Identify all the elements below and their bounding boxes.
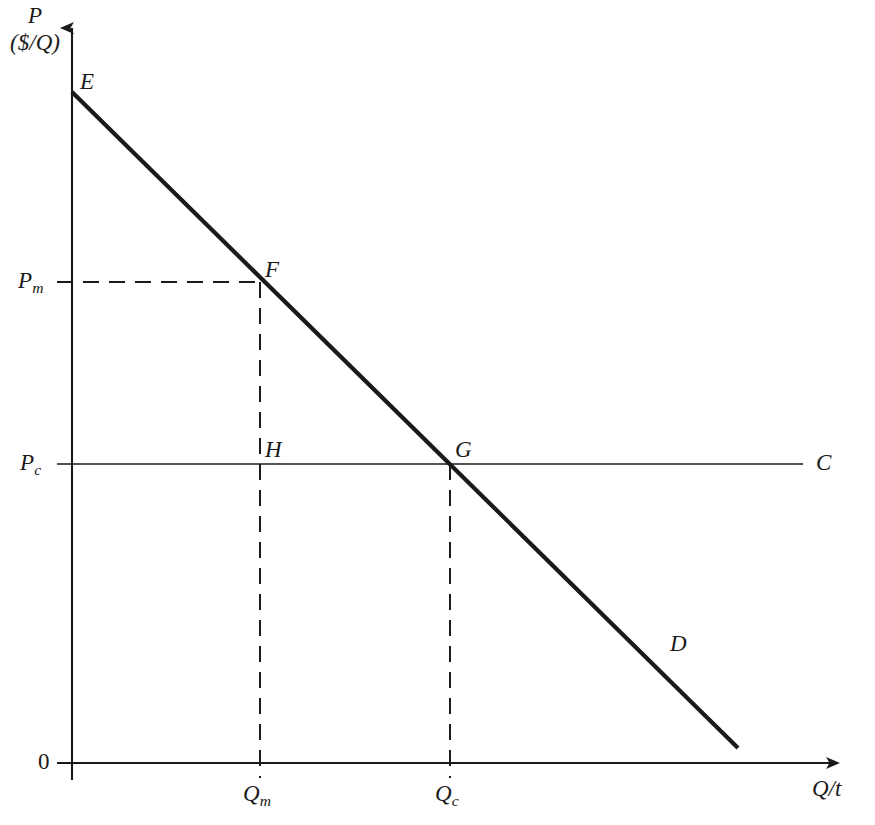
origin-label: 0 [38,750,50,773]
point-label-h: H [265,438,282,461]
point-label-g: G [455,438,472,461]
diagram-canvas [0,0,875,825]
price-tick-pm-base: P [18,268,32,293]
price-tick-pc-base: P [20,450,34,475]
quantity-tick-qm: Qm [243,782,271,805]
price-tick-pm-sub: m [32,279,43,296]
quantity-tick-qc-base: Q [435,781,452,806]
point-label-c: C [816,451,831,474]
point-label-d: D [670,632,687,655]
price-tick-pm: Pm [18,269,43,292]
point-label-f: F [265,258,279,281]
demand-curve [72,92,738,748]
y-axis-label-top: P [2,2,68,29]
y-axis-label-bottom: ($/Q) [2,29,68,56]
economics-diagram: P ($/Q) 0 Q/t Pm Pc Qm Qc E F H G C D [0,0,875,825]
quantity-tick-qc: Qc [435,782,459,805]
point-label-e: E [80,70,94,93]
quantity-tick-qm-sub: m [260,792,271,809]
quantity-tick-qm-base: Q [243,781,260,806]
x-axis-label: Q/t [812,777,841,800]
price-tick-pc: Pc [20,451,41,474]
y-axis-label: P ($/Q) [2,2,68,56]
quantity-tick-qc-sub: c [452,792,459,809]
price-tick-pc-sub: c [34,461,41,478]
